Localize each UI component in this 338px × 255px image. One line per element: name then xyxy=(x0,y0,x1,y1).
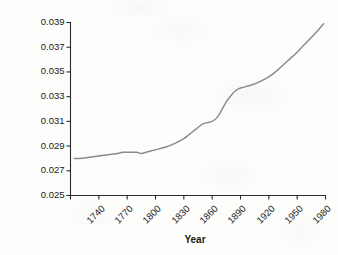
x-axis-title-text: Year xyxy=(184,234,205,245)
data-line-0 xyxy=(74,24,323,159)
y-axis-tick-label-1: 0.027 xyxy=(21,164,65,175)
series-group xyxy=(74,24,323,159)
y-axis-tick-label-0: 0.025 xyxy=(21,189,65,200)
y-axis-tick-label-6: 0.037 xyxy=(21,41,65,52)
y-axis-tick-label-3: 0.031 xyxy=(21,115,65,126)
y-axis-tick-label-4: 0.033 xyxy=(21,90,65,101)
y-axis-tick-label-2: 0.029 xyxy=(21,140,65,151)
y-axis-tick-label-7: 0.039 xyxy=(21,16,65,27)
y-axis-tick-label-5: 0.035 xyxy=(21,65,65,76)
chart-figure: Percentage CO2 in the atmosphere Year 0.… xyxy=(0,0,338,255)
x-axis-title: Year xyxy=(0,234,338,245)
axes-group xyxy=(67,22,327,200)
